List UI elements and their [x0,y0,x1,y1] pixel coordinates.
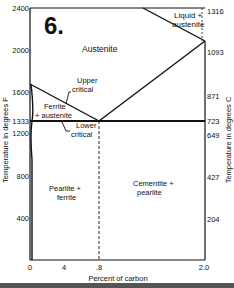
svg-text:723: 723 [207,117,220,126]
phase-diagram: 6. Austenite Liquid + austenite Upper cr… [0,0,234,288]
label-cementite-pearlite-2: pearlite [137,188,162,197]
x-axis-ticks: 0 4 .8 2.0 [28,263,209,272]
label-upper-critical: Upper [77,76,98,85]
ferrite-solvus-line [31,84,33,260]
svg-text:2000: 2000 [12,46,29,55]
svg-text:4: 4 [62,263,66,272]
label-lower-critical-2: critical [71,130,93,139]
svg-text:800: 800 [16,172,29,181]
label-ferrite-austenite-2: + austenite [35,111,72,120]
label-pearlite-ferrite: Pearlite + [49,184,82,193]
label-ferrite-austenite: Ferrite [44,102,66,111]
plot-frame [30,8,205,260]
x-axis-title: Percent of carbon [88,274,147,283]
y-axis-title-left: Temperature in degrees F [1,97,10,183]
label-upper-critical-2: critical [72,85,94,94]
right-axis-ticks: 1316 1093 871 723 649 427 204 [207,7,224,224]
svg-text:427: 427 [207,173,220,182]
svg-text:400: 400 [16,214,29,223]
svg-text:2400: 2400 [12,4,29,13]
svg-text:2.0: 2.0 [199,263,209,272]
label-liquid-austenite: Liquid + [174,11,203,20]
label-pearlite-ferrite-2: ferrite [57,193,76,202]
phase-lines [30,8,205,260]
svg-text:204: 204 [207,215,220,224]
left-axis-ticks: 2400 2000 1600 1333 1200 800 400 [12,4,29,223]
svg-text:1200: 1200 [12,129,29,138]
svg-text:1600: 1600 [12,88,29,97]
label-cementite-pearlite: Cementite + [133,179,174,188]
figure-number: 6. [44,12,64,39]
svg-text:1333: 1333 [12,117,29,126]
y-axis-title-right: Temperature in degrees C [224,96,233,183]
svg-text:871: 871 [207,92,220,101]
bottom-edge-bar [0,283,234,288]
label-austenite: Austenite [82,44,118,54]
svg-text:.8: .8 [96,263,102,272]
label-lower-critical: Lower [76,121,97,130]
svg-text:0: 0 [28,263,32,272]
svg-text:1316: 1316 [207,7,224,16]
svg-text:1093: 1093 [207,48,224,57]
label-liquid-austenite-2: austenite [172,20,205,29]
svg-text:649: 649 [207,131,220,140]
